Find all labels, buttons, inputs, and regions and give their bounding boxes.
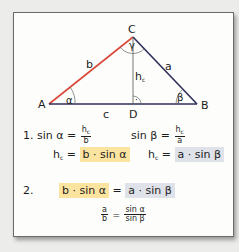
step1-eq-alpha: 1. sin α = hcb <box>23 126 92 145</box>
alpha-label: α <box>66 95 73 106</box>
gamma-label: γ <box>129 40 135 51</box>
right-angle-dot: · <box>135 95 138 106</box>
step2-equation: b · sin α = a · sin β <box>59 185 175 197</box>
ratio-equation: ab = sin αsin β <box>100 206 147 223</box>
vertex-c-label: C <box>128 24 136 35</box>
highlight-a-sin-beta: a · sin β <box>175 147 225 162</box>
side-c-label: c <box>103 109 109 120</box>
highlight-b-sin-alpha: b · sin α <box>80 147 130 162</box>
beta-label: β <box>177 92 183 103</box>
fraction-hc-over-a: hca <box>175 126 185 145</box>
vertex-b-label: B <box>201 100 209 111</box>
highlight-b-sin-alpha-2: b · sin α <box>59 183 109 198</box>
fraction-a-over-b: ab <box>101 206 108 223</box>
fraction-hc-over-b: hcb <box>81 126 91 145</box>
vertex-a-label: A <box>38 99 46 110</box>
step1-number: 1. <box>23 129 34 142</box>
side-a-label: a <box>165 61 172 72</box>
fraction-sin-alpha-over-sin-beta: sin αsin β <box>124 206 145 223</box>
highlight-a-sin-beta-2: a · sin β <box>125 183 175 198</box>
height-label: hc <box>135 71 145 85</box>
hc-equals-b-sin-alpha: hc = b · sin α <box>53 149 130 164</box>
vertex-d-label: D <box>129 109 137 120</box>
step2-number: 2. <box>23 185 34 197</box>
side-b-label: b <box>86 59 93 70</box>
step1-eq-beta: sin β = hca <box>131 126 186 145</box>
hc-equals-a-sin-beta: hc = a · sin β <box>148 149 224 164</box>
